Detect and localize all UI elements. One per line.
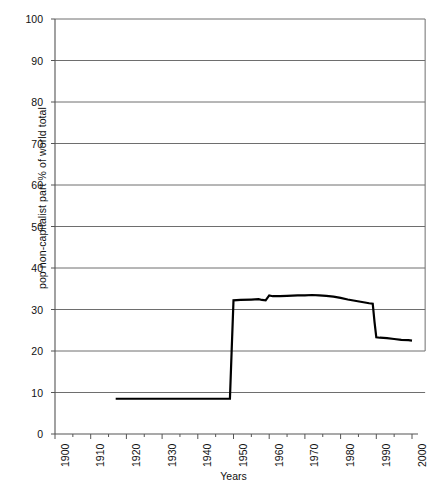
y-tick-label: 0 [13, 429, 43, 440]
y-tick-label: 10 [13, 388, 43, 399]
x-tick-label: 2000 [417, 444, 428, 467]
plot-area [0, 0, 433, 494]
x-tick-label: 1970 [309, 444, 320, 467]
x-tick-label: 1910 [95, 444, 106, 467]
data-series-line [116, 295, 412, 399]
x-tick-label: 1980 [345, 444, 356, 467]
x-tick-label: 1940 [202, 444, 213, 467]
chart-container: pop non-capitalist part % of world total… [0, 0, 433, 494]
y-tick-label: 50 [13, 222, 43, 233]
y-tick-label: 90 [13, 56, 43, 67]
x-tick-label: 1900 [60, 444, 71, 467]
y-tick-label: 100 [13, 14, 43, 25]
x-tick-label: 1950 [238, 444, 249, 467]
x-tick-label: 1960 [274, 444, 285, 467]
y-tick-label: 60 [13, 180, 43, 191]
y-tick-label: 40 [13, 263, 43, 274]
x-tick-label: 1930 [167, 444, 178, 467]
y-tick-label: 80 [13, 97, 43, 108]
x-tick-label: 1920 [131, 444, 142, 467]
y-tick-label: 30 [13, 305, 43, 316]
y-tick-label: 70 [13, 139, 43, 150]
y-tick-label: 20 [13, 346, 43, 357]
x-tick-label: 1990 [381, 444, 392, 467]
gridlines [55, 19, 425, 393]
